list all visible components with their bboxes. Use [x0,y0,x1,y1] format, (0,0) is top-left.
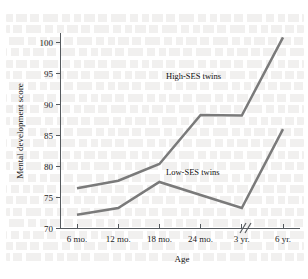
y-axis-title: Mental development score [15,83,25,178]
x-axis-ticks: 6 mo.12 mo.18 mo.24 mo.3 yr.6 yr. [67,224,291,244]
chart-canvas: 707580859095100 6 mo.12 mo.18 mo.24 mo.3… [0,0,308,279]
series-label-low-ses: Low-SES twins [166,167,220,177]
y-axis-ticks: 707580859095100 [40,38,61,234]
y-tick-label-75: 75 [44,193,54,203]
series-line-high-ses-twins [77,37,283,188]
x-tick-label-18-mo-: 18 mo. [147,234,172,244]
y-tick-label-85: 85 [44,131,54,141]
y-tick-label-90: 90 [44,100,54,110]
y-tick-label-70: 70 [44,224,54,234]
x-axis-title: Age [175,254,190,264]
chart-figure: 707580859095100 6 mo.12 mo.18 mo.24 mo.3… [0,0,308,279]
x-tick-label-12-mo-: 12 mo. [106,234,131,244]
x-tick-label-24-mo-: 24 mo. [188,234,213,244]
y-tick-label-100: 100 [40,38,54,48]
series-lines [77,37,283,215]
series-label-high-ses: High-SES twins [166,71,221,81]
x-tick-label-3-yr-: 3 yr. [234,234,250,244]
x-tick-label-6-mo-: 6 mo. [67,234,88,244]
x-tick-label-6-yr-: 6 yr. [275,234,291,244]
y-tick-label-95: 95 [44,69,54,79]
y-tick-label-80: 80 [44,162,54,172]
